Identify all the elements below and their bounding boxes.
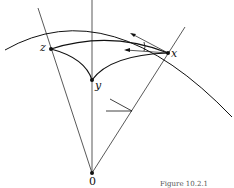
point-z [49,47,53,51]
arrowhead-icon [130,33,136,37]
angle-arc [144,42,145,51]
ray-through-z [38,8,92,173]
side-y-x [92,53,168,80]
figure-caption: Figure 10.2.1 [160,180,208,188]
label-z: z [40,42,46,53]
label-y: y [95,80,101,91]
label-origin: 0 [89,176,96,187]
geodesic-triangle-diagram [0,0,234,188]
point-x [166,51,170,55]
angle-marker-slant [110,99,132,111]
side-z-y [51,49,92,80]
arrowhead-icon [124,48,130,52]
side-z-x [51,40,168,53]
label-x: x [171,48,177,59]
point-y [90,78,94,82]
